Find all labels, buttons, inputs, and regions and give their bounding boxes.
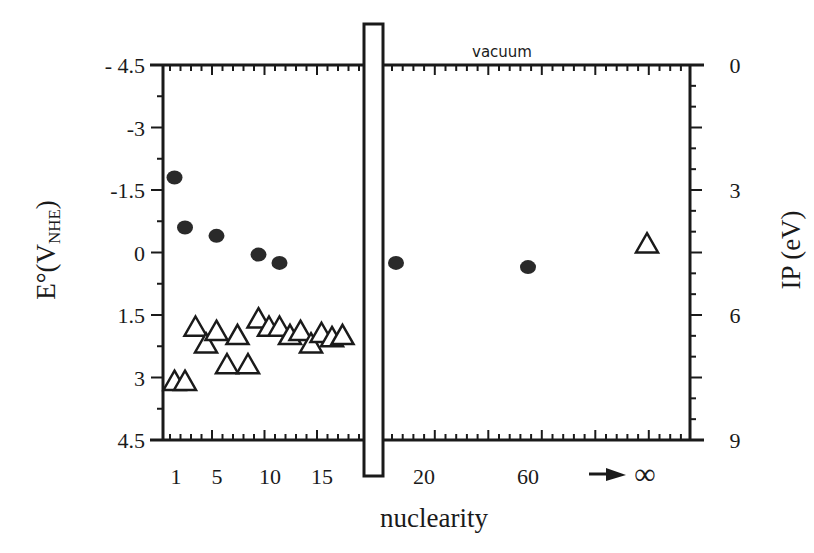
left-y-tick-label: 1.5	[118, 303, 146, 328]
open-triangle-point	[216, 354, 238, 373]
x-tick-labels: 1510152060	[171, 464, 540, 489]
left-y-tick-label: 4.5	[118, 428, 146, 453]
arrow-icon	[589, 468, 626, 481]
left-y-tick-label: - 4.5	[105, 53, 145, 78]
open-triangle-point	[636, 233, 658, 252]
right-y-tick-label: 6	[730, 303, 741, 328]
x-tick-label: 1	[171, 464, 182, 489]
open-triangle-point	[185, 317, 207, 336]
filled-circle-point	[272, 256, 288, 270]
left-y-tick-label: -3	[127, 116, 145, 141]
x-axis-title: nuclearity	[380, 503, 488, 533]
plot-frame	[150, 65, 704, 440]
svg-text:IP (eV): IP (eV)	[776, 210, 806, 289]
right-y-tick-label: 0	[730, 53, 741, 78]
x-tick-label: 20	[413, 464, 435, 489]
left-y-tick-label: 3	[134, 366, 145, 391]
right-y-tick-label: 9	[730, 428, 741, 453]
filled-circle-point	[167, 171, 183, 185]
vacuum-annotation: vacuum	[472, 43, 532, 61]
open-triangle-point	[206, 321, 228, 340]
svg-text:E°(VNHE): E°(VNHE)	[31, 200, 64, 300]
right-y-axis-title: IP (eV)	[776, 210, 806, 289]
axis-break	[364, 24, 383, 476]
axis-ticks	[151, 65, 702, 440]
right-y-tick-labels: 0369	[730, 53, 741, 453]
left-y-tick-labels: - 4.5-3-1.501.534.5	[105, 53, 145, 453]
x-tick-infinity: ∞	[634, 457, 655, 490]
filled-circle-point	[209, 229, 225, 243]
x-tick-label: 5	[212, 464, 223, 489]
filled-circle-point	[251, 248, 267, 262]
filled-circle-point	[177, 221, 193, 235]
chart: - 4.5-3-1.501.534.5 0369 1510152060 ∞ va…	[0, 0, 814, 553]
filled-circle-point	[520, 260, 536, 274]
open-triangle-point	[227, 325, 249, 344]
filled-circle-point	[388, 256, 404, 270]
x-tick-label: 60	[517, 464, 539, 489]
open-triangle-point	[237, 354, 259, 373]
right-y-tick-label: 3	[730, 178, 741, 203]
left-y-axis-title: E°(VNHE)	[31, 200, 64, 300]
left-y-tick-label: 0	[134, 241, 145, 266]
x-tick-label: 10	[259, 464, 281, 489]
left-y-tick-label: -1.5	[110, 178, 145, 203]
x-tick-label: 15	[311, 464, 333, 489]
data-points	[164, 171, 659, 390]
